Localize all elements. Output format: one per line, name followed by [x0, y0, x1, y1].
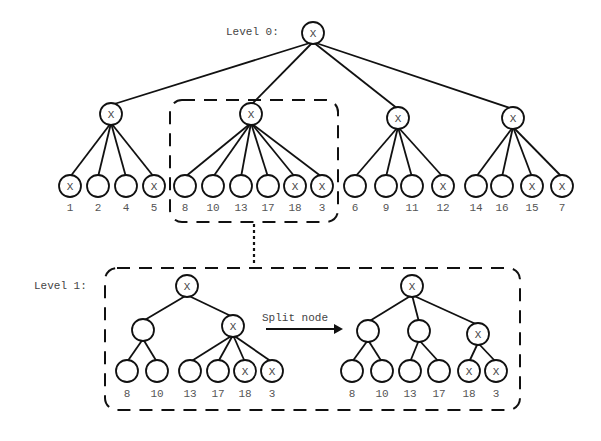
edge: [410, 340, 419, 362]
edge: [513, 127, 532, 177]
x-mark-icon: X: [292, 181, 299, 193]
edge: [111, 123, 154, 177]
leaf-label: 13: [183, 388, 196, 400]
marked-node: X: [432, 175, 454, 197]
marked-node: X: [311, 175, 333, 197]
edge: [352, 340, 368, 362]
marked-node: X: [302, 22, 324, 44]
level1-label: Level 1:: [34, 280, 87, 292]
edge: [513, 127, 562, 177]
leaf-label: 2: [95, 202, 102, 214]
leaf-label: 7: [559, 202, 566, 214]
leaf-label: 10: [375, 388, 388, 400]
node: [375, 175, 397, 197]
node: [357, 320, 379, 342]
x-mark-icon: X: [466, 366, 473, 378]
marked-node: X: [100, 103, 122, 125]
node: [179, 360, 201, 382]
node: [87, 175, 109, 197]
node: [257, 175, 279, 197]
leaf-label: 11: [405, 202, 418, 214]
x-mark-icon: X: [440, 181, 447, 193]
x-mark-icon: X: [269, 366, 276, 378]
edge: [368, 340, 382, 362]
edge: [143, 295, 187, 321]
leaf-label: 8: [349, 388, 356, 400]
node: [401, 175, 423, 197]
node: [202, 175, 224, 197]
edge: [127, 339, 143, 362]
leaf-label: 12: [436, 202, 449, 214]
level0-label: Level 0:: [226, 26, 279, 38]
marked-node: X: [284, 175, 306, 197]
marked-node: X: [467, 323, 489, 345]
leaf-label: 17: [432, 388, 445, 400]
leaf-label: 14: [469, 202, 482, 214]
marked-node: X: [222, 315, 244, 337]
marked-node: X: [387, 107, 409, 129]
leaf-label: 6: [352, 202, 359, 214]
tree-diagram: XXXXXXXXXXXXXXXXXXXX: [0, 0, 601, 441]
marked-node: X: [143, 175, 165, 197]
leaf-label: 10: [150, 388, 163, 400]
node: [399, 360, 421, 382]
edge: [419, 340, 439, 362]
node: [132, 319, 154, 341]
x-mark-icon: X: [559, 181, 566, 193]
marked-node: X: [401, 275, 423, 297]
marked-node: X: [458, 360, 480, 382]
leaf-label: 5: [151, 202, 158, 214]
arrow-right-icon: [334, 324, 343, 334]
node: [174, 175, 196, 197]
leaf-label: 13: [403, 388, 416, 400]
edge: [313, 42, 398, 109]
leaf-label: 3: [493, 388, 500, 400]
x-mark-icon: X: [248, 109, 255, 121]
node: [116, 360, 138, 382]
x-mark-icon: X: [151, 181, 158, 193]
x-mark-icon: X: [475, 329, 482, 341]
edge: [251, 123, 268, 177]
node: [408, 320, 430, 342]
edge: [412, 295, 419, 322]
edge: [190, 335, 233, 362]
leaf-label: 17: [211, 388, 224, 400]
x-mark-icon: X: [493, 366, 500, 378]
node: [465, 175, 487, 197]
marked-node: X: [59, 175, 81, 197]
marked-node: X: [521, 175, 543, 197]
x-mark-icon: X: [395, 113, 402, 125]
x-mark-icon: X: [319, 181, 326, 193]
edge: [368, 295, 412, 322]
leaf-label: 8: [182, 202, 189, 214]
edge: [143, 339, 157, 362]
x-mark-icon: X: [510, 113, 517, 125]
marked-node: X: [485, 360, 507, 382]
x-mark-icon: X: [184, 281, 191, 293]
leaf-label: 17: [261, 202, 274, 214]
x-mark-icon: X: [67, 181, 74, 193]
marked-node: X: [234, 360, 256, 382]
leaf-label: 4: [123, 202, 130, 214]
node: [344, 175, 366, 197]
x-mark-icon: X: [230, 321, 237, 333]
leaf-label: 3: [269, 388, 276, 400]
leaf-label: 8: [124, 388, 131, 400]
leaf-label: 18: [462, 388, 475, 400]
leaf-label: 18: [238, 388, 251, 400]
marked-node: X: [261, 360, 283, 382]
marked-node: X: [502, 107, 524, 129]
edge: [469, 343, 478, 362]
node: [230, 175, 252, 197]
split-node-label: Split node: [262, 312, 328, 324]
edge: [313, 42, 513, 109]
leaf-label: 18: [288, 202, 301, 214]
node: [207, 360, 229, 382]
node: [146, 360, 168, 382]
x-mark-icon: X: [310, 28, 317, 40]
node: [491, 175, 513, 197]
leaf-label: 3: [319, 202, 326, 214]
edge: [187, 295, 233, 317]
x-mark-icon: X: [409, 281, 416, 293]
x-mark-icon: X: [529, 181, 536, 193]
